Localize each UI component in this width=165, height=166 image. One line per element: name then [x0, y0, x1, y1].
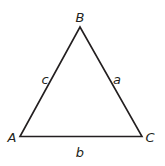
vertex-label-b: B	[76, 10, 85, 25]
vertex-label-a: A	[7, 130, 17, 145]
triangle-diagram: B A C c a b	[0, 0, 165, 166]
triangle-abc	[20, 27, 142, 137]
vertex-label-c: C	[145, 130, 155, 145]
side-label-c: c	[41, 72, 48, 87]
side-label-b: b	[76, 145, 84, 160]
side-label-a: a	[113, 72, 121, 87]
